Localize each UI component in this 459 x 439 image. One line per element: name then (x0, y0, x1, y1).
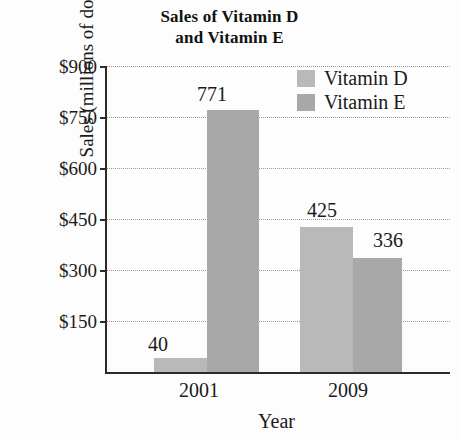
bar-value-2001-vitamin-d: 40 (128, 334, 188, 354)
bar-2001-vitamin-e (207, 110, 259, 372)
bar-value-2009-vitamin-e: 336 (352, 230, 424, 250)
legend-swatch-icon-vitamin-e (297, 94, 315, 111)
y-tick-750 (100, 117, 107, 119)
legend-label-vitamin-d: Vitamin D (324, 68, 408, 88)
y-tick-900 (100, 66, 107, 68)
y-tick-600 (100, 168, 107, 170)
y-tick-label-750: $750 (40, 108, 97, 127)
bar-2009-vitamin-d (300, 227, 353, 372)
chart-legend: Vitamin D Vitamin E (297, 66, 447, 114)
gridline-450 (107, 219, 450, 220)
legend-item-vitamin-e: Vitamin E (297, 90, 447, 114)
y-tick-label-900: $900 (40, 57, 97, 76)
bar-value-2009-vitamin-d: 425 (286, 200, 358, 220)
legend-item-vitamin-d: Vitamin D (297, 66, 447, 90)
bar-value-2001-vitamin-e: 771 (176, 84, 248, 104)
y-tick-300 (100, 270, 107, 272)
bar-2009-vitamin-e (353, 258, 402, 372)
bar-2001-vitamin-d (154, 358, 207, 372)
chart-page: Sales of Vitamin D and Vitamin E Sales (… (0, 0, 459, 439)
y-tick-label-300: $300 (40, 261, 97, 280)
y-tick-label-150: $150 (40, 312, 97, 331)
gridline-750 (107, 117, 450, 118)
x-tick-label-2009: 2009 (318, 380, 378, 400)
chart-title-line-1: Sales of Vitamin D (0, 6, 459, 27)
gridline-600 (107, 168, 450, 169)
x-axis-title: Year (105, 410, 448, 433)
y-tick-label-450: $450 (40, 210, 97, 229)
legend-swatch-icon-vitamin-d (297, 70, 315, 87)
chart-title-line-2: and Vitamin E (0, 27, 459, 48)
y-tick-150 (100, 321, 107, 323)
y-tick-450 (100, 219, 107, 221)
chart-title: Sales of Vitamin D and Vitamin E (0, 6, 459, 48)
x-tick-label-2001: 2001 (169, 380, 229, 400)
y-tick-label-600: $600 (40, 159, 97, 178)
legend-label-vitamin-e: Vitamin E (324, 92, 406, 112)
